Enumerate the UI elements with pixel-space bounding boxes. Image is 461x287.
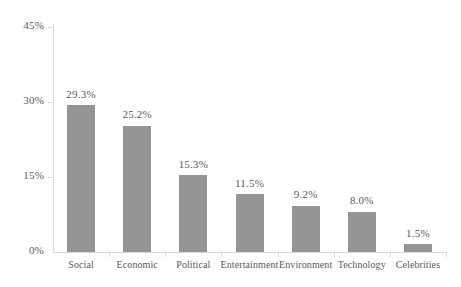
bar[interactable] xyxy=(404,244,432,252)
bar[interactable] xyxy=(348,212,376,252)
bar-value-label: 9.2% xyxy=(276,188,336,200)
y-axis-tick-mark xyxy=(48,177,53,178)
y-axis-tick-label: 0% xyxy=(4,244,44,256)
bar-value-label: 15.3% xyxy=(163,158,223,170)
x-axis-tick-mark xyxy=(221,252,222,257)
bar[interactable] xyxy=(67,105,95,252)
bar-value-label: 11.5% xyxy=(220,177,280,189)
x-axis-category-label: Celebrities xyxy=(378,259,458,270)
y-axis-tick-mark xyxy=(48,102,53,103)
y-axis-tick-mark xyxy=(48,27,53,28)
x-axis-line xyxy=(53,252,446,253)
bar[interactable] xyxy=(179,175,207,252)
bar-value-label: 25.2% xyxy=(107,108,167,120)
x-axis-tick-mark xyxy=(109,252,110,257)
bar-value-label: 29.3% xyxy=(51,88,111,100)
bar[interactable] xyxy=(236,194,264,252)
y-axis-tick-label: 45% xyxy=(4,19,44,31)
x-axis-tick-mark xyxy=(334,252,335,257)
x-axis-tick-mark xyxy=(390,252,391,257)
y-axis-line xyxy=(53,25,54,253)
bar[interactable] xyxy=(292,206,320,252)
bar-value-label: 8.0% xyxy=(332,194,392,206)
y-axis-tick-label: 30% xyxy=(4,94,44,106)
x-axis-tick-mark xyxy=(278,252,279,257)
bar[interactable] xyxy=(123,126,151,252)
bar-chart: 0%15%30%45% 29.3%Social25.2%Economic15.3… xyxy=(0,0,461,287)
y-axis-tick-label: 15% xyxy=(4,169,44,181)
bar-value-label: 1.5% xyxy=(388,227,448,239)
x-axis-tick-mark xyxy=(446,252,447,257)
x-axis-tick-mark xyxy=(165,252,166,257)
